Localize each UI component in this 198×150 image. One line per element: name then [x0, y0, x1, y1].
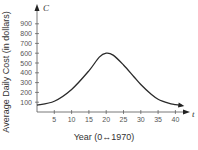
x-tick-label: 35	[154, 116, 162, 123]
x-tick-label: 40	[172, 116, 180, 123]
line-chart: Average Daily Cost (in dollars) C t 1002…	[0, 0, 198, 150]
x-tick-label: 5	[52, 116, 56, 123]
y-tick-label: 200	[20, 89, 32, 96]
x-tick-label: 25	[120, 116, 128, 123]
cost-curve	[37, 53, 182, 106]
curve-arrow-icon	[178, 103, 184, 108]
y-tick-label: 300	[20, 79, 32, 86]
x-tick-label: 10	[68, 116, 76, 123]
x-tick-label: 20	[102, 116, 110, 123]
y-tick-label: 100	[20, 99, 32, 106]
y-variable-label: C	[43, 3, 50, 13]
x-variable-label: t	[192, 109, 195, 119]
svg-text:Average Daily Cost (in dollars: Average Daily Cost (in dollars)	[1, 11, 11, 132]
y-ticks: 100200300400500600700800900	[20, 20, 39, 105]
y-tick-label: 900	[20, 20, 32, 27]
y-axis-title: Average Daily Cost (in dollars)	[1, 11, 11, 132]
y-tick-label: 800	[20, 30, 32, 37]
y-tick-label: 500	[20, 60, 32, 67]
y-tick-label: 600	[20, 50, 32, 57]
x-axis-title: Year (0↔1970)	[74, 132, 135, 142]
y-axis-arrow-icon	[35, 4, 40, 11]
x-tick-label: 15	[85, 116, 93, 123]
y-tick-label: 700	[20, 40, 32, 47]
y-tick-label: 400	[20, 69, 32, 76]
x-tick-label: 30	[137, 116, 145, 123]
x-axis-arrow-icon	[183, 110, 190, 115]
